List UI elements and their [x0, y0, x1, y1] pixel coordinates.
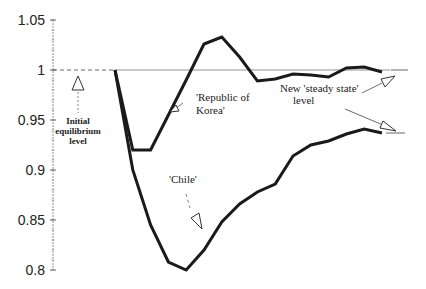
line-chart: 1.0510.950.90.850.8 Initial equilibrium … [0, 0, 426, 289]
initial-label-line2: equilibrium [55, 126, 101, 136]
steady-state-annotation: New 'steady state' level [280, 76, 396, 131]
annotation-pointer-upper [362, 83, 382, 93]
y-tick-label: 0.95 [18, 112, 45, 128]
initial-label-line3: level [69, 136, 87, 146]
y-tick-label: 1 [37, 62, 45, 78]
arrow-lower-icon [380, 121, 396, 131]
chile-label: 'Chile' [169, 173, 197, 185]
korea-label-line1: 'Republic of [196, 91, 250, 103]
arrow-upper-icon [381, 76, 395, 87]
y-tick-label: 0.85 [18, 212, 45, 228]
arrow-down-icon [191, 213, 202, 229]
steady-label-line2: level [293, 94, 314, 106]
annotation-pointer-lower [345, 109, 383, 125]
arrow-up-icon [72, 76, 84, 90]
initial-label-line1: Initial [66, 116, 90, 126]
initial-equilibrium-annotation: Initial equilibrium level [55, 76, 101, 146]
y-tick-label: 1.05 [18, 12, 45, 28]
y-tick-label: 0.9 [26, 162, 46, 178]
y-axis: 1.0510.950.90.850.8 [18, 12, 56, 278]
annotation-pointer [186, 194, 190, 208]
chile-annotation: 'Chile' [169, 173, 202, 229]
korea-annotation: 'Republic of Korea' [170, 91, 250, 116]
y-tick-label: 0.8 [26, 262, 46, 278]
steady-label-line1: New 'steady state' [280, 82, 359, 94]
korea-label-line2: Korea' [196, 104, 225, 116]
series-lines [115, 37, 382, 270]
